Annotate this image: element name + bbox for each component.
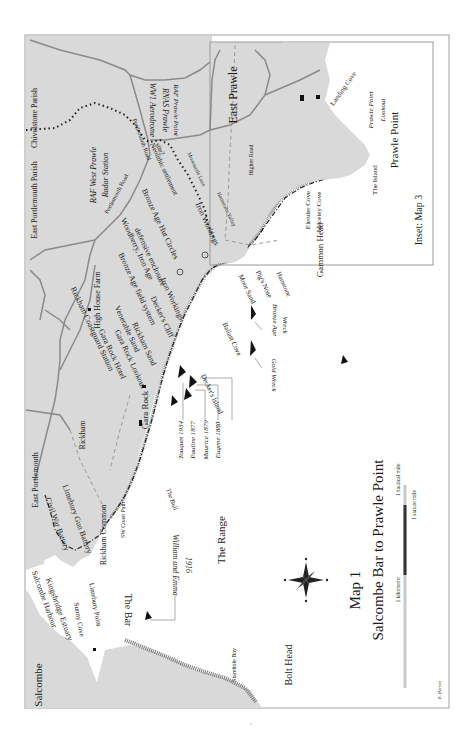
label-rnas-prawle: RNAS Prawle: [161, 87, 170, 133]
label-chivelstone-parish: Chivelstone Parish: [30, 88, 39, 148]
label-gold-wreck: Gold Wreck: [270, 359, 278, 393]
map-subtitle: Salcombe Bar to Prawle Point: [370, 459, 386, 641]
label-raf-west-prawle: RAF West Prawle: [89, 146, 98, 204]
map-canvas: Chivelstone Parish East Portlemouth Pari…: [0, 0, 474, 732]
label-east-portlemouth: East Portlemouth: [31, 452, 40, 507]
label-prawle-point-lookout-2: Lookout: [379, 97, 387, 122]
label-wreck-pauline: Pauline 1877: [189, 421, 197, 460]
label-raf-prawle-point: RAF Prawle Point: [172, 83, 180, 137]
label-starehole-bay: Starehole Bay: [231, 648, 237, 682]
label-the-island: The Island: [371, 165, 379, 195]
label-bronze-age-wreck: Bronze Age: [271, 304, 279, 336]
scale-label-kilometre: 1 kilometre: [395, 577, 401, 603]
label-wreck-maurice: Maurice 1879: [202, 420, 210, 461]
label-rickham-common: Rickham Common: [99, 505, 108, 566]
label-the-range: The Range: [215, 516, 227, 564]
label-high-house-farm: High House Farm: [93, 271, 102, 329]
map-title: Map 1: [347, 571, 363, 610]
label-bronze-age-wreck-2: Wreck: [281, 316, 289, 334]
label-william-and-emma-year: 1916: [184, 557, 193, 573]
label-wreck-eugene: Eugene 1880: [214, 421, 222, 459]
map-credit: R. Barrett: [437, 680, 442, 700]
scale-label-statute-mile: 1 statute mile: [411, 490, 417, 520]
label-bolt-head: Bolt Head: [283, 645, 294, 686]
label-william-and-emma: William and Emma: [171, 534, 180, 595]
label-prawle-point-lookout-1: Prawle Point: [367, 90, 375, 129]
label-east-portlemouth-parish: East Portlemouth Parish: [30, 161, 39, 238]
label-sw-coast-path: SW Coast Path: [120, 502, 126, 538]
label-wwi-aerodrome: WW1 Aerodrome: [148, 83, 157, 138]
label-gara-rock: Gara Rock: [140, 390, 150, 429]
label-radar-station: Radar Station: [101, 153, 110, 199]
inset-label: Inset: Map 3: [413, 195, 424, 246]
label-maceley-cove: Maceley Cove: [315, 192, 323, 233]
label-wreck-touquet: Touquet 1934: [177, 420, 185, 459]
label-elender-cove: Elender Cove: [304, 191, 312, 229]
label-higher-road: Higher Road: [248, 145, 254, 176]
label-rickham: Rickham: [78, 420, 87, 450]
label-east-prawle: East Prawle: [226, 67, 240, 124]
stray-dot: [250, 723, 251, 724]
label-the-bar: The Bar: [123, 594, 134, 627]
label-prawle-point: Prawle Point: [388, 112, 400, 169]
scale-label-nautical-mile: 1 nautical mile: [395, 463, 401, 496]
label-salcombe: Salcombe: [32, 663, 44, 706]
